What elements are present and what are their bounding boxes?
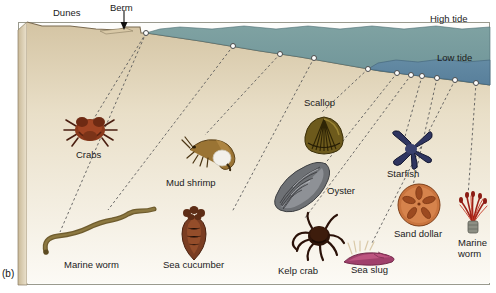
organism-oyster [272,158,334,214]
tide-marker-m5 [365,66,371,72]
organism-sea-cucumber [172,204,216,262]
tide-marker-m2 [230,43,236,49]
tide-marker-m4 [311,55,317,61]
tide-marker-m6 [394,70,400,76]
organism-marine-worm-right-label: Marineworm [458,237,487,259]
organism-sand-dollar-label: Sand dollar [394,228,442,239]
organism-mud-shrimp-label: Mud shrimp [166,177,216,188]
tide-marker-m7 [408,72,414,78]
tide-marker-m8 [419,73,425,79]
label-low-tide: Low tide [437,52,472,63]
organism-kelp-crab-label: Kelp crab [278,265,318,276]
organism-marine-worm-left [38,208,156,260]
organism-mud-shrimp [180,128,238,172]
organism-scallop [302,113,346,155]
organism-marine-worm-right-label-line2: worm [458,248,487,259]
organism-marine-worm-right [455,183,491,235]
organism-marine-worm-left-label: Marine worm [64,259,119,270]
organism-scallop-label: Scallop [304,97,335,108]
tide-marker-m9 [434,75,440,81]
organism-starfish-label: Starfish [387,168,419,179]
tide-marker-m10 [452,77,458,83]
organism-crabs [60,108,120,150]
panel-label: (b) [2,268,14,279]
tide-marker-m11 [473,80,479,86]
label-dunes: Dunes [53,7,80,18]
tide-marker-m3 [277,51,283,57]
organism-oyster-label: Oyster [327,185,355,196]
organism-sea-cucumber-label: Sea cucumber [163,259,224,270]
organism-starfish [388,129,434,169]
organism-sea-slug-label: Sea slug [351,264,388,275]
figure-root: DunesBermHigh tideLow tide CrabsMud shri… [0,0,496,293]
organism-crabs-label: Crabs [76,149,101,160]
organism-sand-dollar [395,181,443,229]
tide-marker-m1 [143,30,149,36]
label-berm: Berm [110,2,133,13]
label-high-tide: High tide [430,13,468,24]
organism-marine-worm-right-label-line1: Marine [458,237,487,248]
